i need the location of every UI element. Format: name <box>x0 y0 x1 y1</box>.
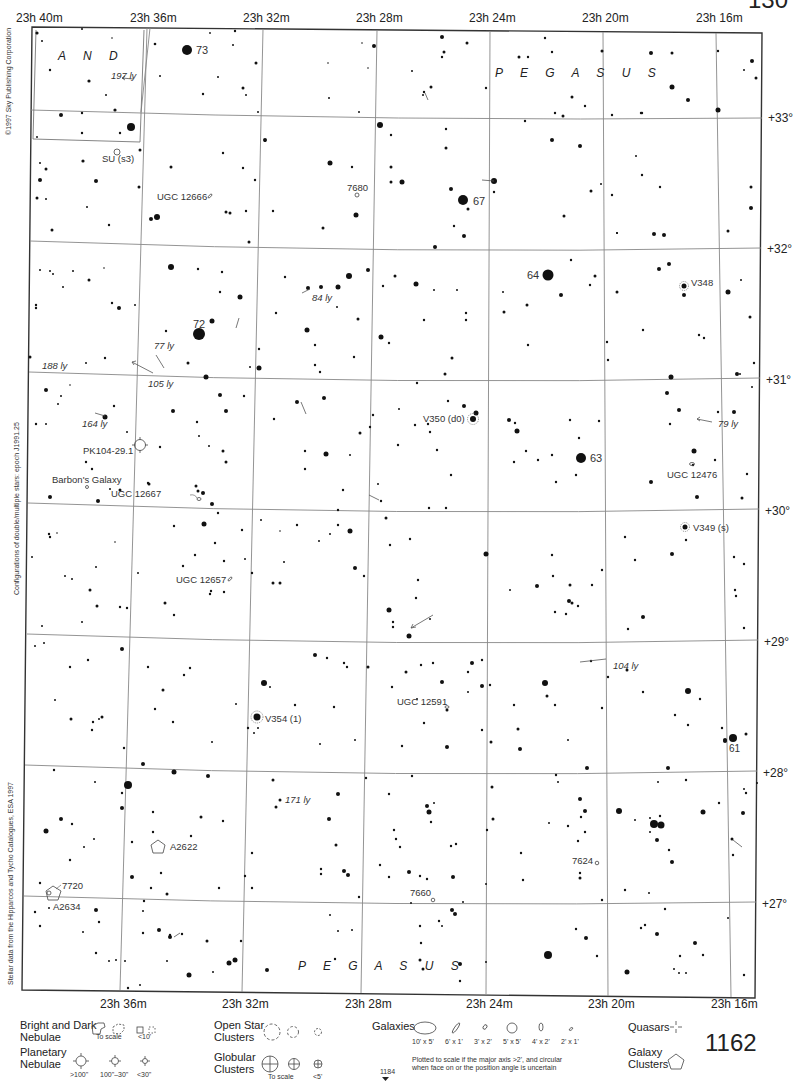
galaxy-ugc12666[interactable]: UGC 12666 <box>157 191 212 202</box>
copyright-text: ©1997 Sky Publishing Corporation <box>5 28 13 135</box>
dec-label: +31° <box>766 373 791 387</box>
legend-open-cluster-label: Clusters <box>214 1031 255 1043</box>
ra-label: 23h 16m <box>711 997 758 1011</box>
ra-label: 23h 28m <box>356 11 403 25</box>
svg-text:5' x 5': 5' x 5' <box>503 1038 521 1045</box>
svg-text:V350 (d0): V350 (d0) <box>423 413 465 424</box>
svg-text:A2622: A2622 <box>170 841 197 852</box>
down-arrow-icon <box>382 1077 389 1081</box>
svg-text:UGC 12667: UGC 12667 <box>111 488 161 499</box>
quasar-icon <box>670 1021 682 1033</box>
open-cluster-icon <box>315 1029 322 1036</box>
legend-globular-label: Globular <box>214 1051 256 1063</box>
svg-text:84 ly: 84 ly <box>312 292 333 303</box>
labeled-stars: 73 67 64 72 63 61 <box>182 44 741 754</box>
star-64[interactable]: 64 <box>527 269 554 281</box>
legend-galaxies-label: Galaxies <box>372 1020 415 1032</box>
planetary-nebula-icon <box>140 1056 150 1066</box>
galaxy-cluster-icon <box>668 1054 684 1069</box>
star-67[interactable]: 67 <box>458 195 485 207</box>
svg-text:<10': <10' <box>138 1033 151 1040</box>
ra-labels-bottom: 23h 36m 23h 32m 23h 28m 23h 24m 23h 20m … <box>100 997 758 1011</box>
svg-text:To scale: To scale <box>96 1033 122 1040</box>
constellation-pegasus: P E G A S U S <box>495 66 663 80</box>
variable-star-v354[interactable]: V354 (1) <box>251 711 301 724</box>
galaxy-ugc12657[interactable]: UGC 12657 <box>176 574 232 585</box>
svg-text:79 ly: 79 ly <box>718 418 739 429</box>
galaxy-icon <box>414 1022 436 1034</box>
open-cluster-su[interactable]: SU (s3) <box>102 149 134 164</box>
legend-quasars-label: Quasars <box>628 1021 670 1033</box>
proper-motion-vectors <box>95 76 742 937</box>
svg-text:V348: V348 <box>691 277 713 288</box>
legend: Bright and Dark Nebulae To scale <10' Pl… <box>20 1019 757 1081</box>
svg-text:105 ly: 105 ly <box>148 378 175 389</box>
galaxy-barbons[interactable]: Barbon's Galaxy <box>52 474 122 489</box>
galaxy-ugc12591[interactable]: UGC 12591 <box>397 696 449 708</box>
dec-label: +28° <box>763 766 788 780</box>
ra-label: 23h 32m <box>222 997 269 1011</box>
svg-text:104 ly: 104 ly <box>613 660 640 671</box>
svg-text:67: 67 <box>473 195 485 207</box>
dec-label: +27° <box>762 897 787 911</box>
page-number: 1162 <box>705 1029 757 1056</box>
svg-text:61: 61 <box>729 743 741 754</box>
svg-text:UGC 12666: UGC 12666 <box>157 191 207 202</box>
constellation-and: A N D <box>57 49 125 63</box>
galaxy-ugc12476[interactable]: UGC 12476 <box>667 463 717 481</box>
ra-label: 23h 36m <box>130 11 177 25</box>
galaxy-ngc7660[interactable]: 7660 <box>410 887 435 902</box>
svg-text:A2634: A2634 <box>53 901 80 912</box>
next-page-ref[interactable]: 1184 <box>380 1068 395 1075</box>
svg-text:>100": >100" <box>70 1071 89 1078</box>
svg-text:171 ly: 171 ly <box>285 794 312 805</box>
svg-text:73: 73 <box>196 44 208 56</box>
svg-text:10' x 5': 10' x 5' <box>412 1038 434 1045</box>
svg-text:7720: 7720 <box>62 880 83 891</box>
legend-globular-label: Clusters <box>214 1063 255 1075</box>
svg-text:3' x 2': 3' x 2' <box>474 1038 492 1045</box>
svg-text:SU (s3): SU (s3) <box>102 153 134 164</box>
ra-label: 23h 28m <box>345 997 392 1011</box>
galaxy-ngc7720[interactable]: 7720 <box>47 880 83 895</box>
svg-text:UGC 12476: UGC 12476 <box>667 469 717 480</box>
svg-text:72: 72 <box>193 318 205 330</box>
galaxy-icon <box>451 1022 460 1034</box>
svg-text:188 ly: 188 ly <box>42 360 69 371</box>
dec-labels: +33° +32° +31° +30° +29° +28° +27° <box>762 111 793 911</box>
galaxy-ugc12667[interactable]: UGC 12667 <box>111 488 201 501</box>
deep-sky-objects: SU (s3) UGC 12666 7680 PK104-29.1 Barbon… <box>46 149 717 912</box>
star-72[interactable]: 72 <box>193 318 205 340</box>
distance-labels: 197 ly 188 ly 77 ly 105 ly 84 ly 164 ly … <box>42 70 739 805</box>
stellar-data-note: Stellar data from the Hipparcos and Tych… <box>7 782 15 985</box>
galaxy-ngc7680[interactable]: 7680 <box>347 182 368 197</box>
ra-label: 23h 36m <box>100 997 147 1011</box>
globular-cluster-icon <box>262 1056 278 1072</box>
galaxy-icon <box>507 1023 517 1033</box>
ra-gridlines <box>120 28 731 997</box>
variable-star-v348[interactable]: V348 <box>680 277 714 291</box>
star-73[interactable]: 73 <box>182 44 208 56</box>
variable-star-v350[interactable]: V350 (d0) <box>423 413 479 425</box>
svg-text:77 ly: 77 ly <box>154 340 175 351</box>
top-page-number: 130 <box>748 0 788 13</box>
planetary-nebula-icon <box>73 1053 89 1069</box>
svg-text:64: 64 <box>527 269 539 281</box>
svg-text:UGC 12591: UGC 12591 <box>397 696 447 707</box>
constellation-boundary-and <box>33 30 144 142</box>
svg-text:197 ly: 197 ly <box>111 70 138 81</box>
globular-cluster-icon <box>314 1060 322 1068</box>
variable-star-v349[interactable]: V349 (s) <box>681 522 729 533</box>
epoch-note: Configurations of double/multiple stars:… <box>13 422 21 595</box>
planetary-nebula-pk104[interactable]: PK104-29.1 <box>83 437 148 456</box>
legend-nebulae-label: Nebulae <box>20 1031 61 1043</box>
galaxy-ngc7624[interactable]: 7624 <box>572 855 599 866</box>
galaxy-cluster-a2622[interactable]: A2622 <box>151 840 197 853</box>
legend-nebulae-label: Bright and Dark <box>20 1019 97 1031</box>
svg-text:V354 (1): V354 (1) <box>265 713 301 724</box>
star-63[interactable]: 63 <box>576 452 602 464</box>
ra-label: 23h 40m <box>16 11 63 25</box>
dec-label: +30° <box>765 504 790 518</box>
legend-galaxy-cluster-label: Galaxy <box>628 1046 663 1058</box>
star-61[interactable]: 61 <box>723 734 741 754</box>
